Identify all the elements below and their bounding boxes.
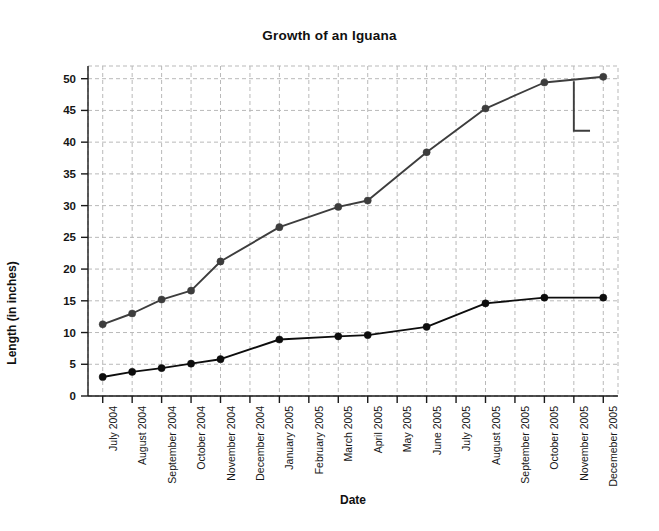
chart-container: Growth of an Iguana 05101520253035404550… [0,0,659,531]
data-point-marker [541,294,548,301]
plot-border [88,66,618,396]
y-tick-label: 0 [46,390,76,402]
y-axis-label: Length (in inches) [5,183,19,443]
data-point-marker [99,321,106,328]
y-tick-label: 5 [46,358,76,370]
data-point-marker [600,73,607,80]
y-tick-label: 30 [46,200,76,212]
x-axis-tick-labels: July 2004August 2004September 2004Octobe… [88,400,618,500]
data-point-marker [423,149,430,156]
data-point-marker [158,296,165,303]
x-tick-label: May 2005 [401,406,413,452]
y-tick-label: 15 [46,295,76,307]
x-tick-label: December 2004 [254,406,266,481]
series-line-lower-series [103,298,604,377]
y-tick-label: 35 [46,168,76,180]
y-tick-label: 25 [46,231,76,243]
data-point-marker [335,333,342,340]
data-point-marker [276,224,283,231]
y-tick-label: 10 [46,327,76,339]
plot-area: Length (in inches) [88,66,618,396]
vertical-drop-artifact [574,81,590,131]
x-tick-label: March 2005 [342,406,354,461]
data-point-marker [335,203,342,210]
artifact-stroke [574,81,590,131]
x-tick-label: October 2005 [548,406,560,470]
gridlines [88,66,618,396]
y-tick-label: 45 [46,104,76,116]
plot-svg [88,66,618,396]
x-tick-label: July 2005 [460,406,472,451]
y-tick-label: 50 [46,73,76,85]
x-tick-label: November 2005 [578,406,590,481]
axis-lines [88,66,618,396]
x-tick-label: July 2004 [107,406,119,451]
data-point-marker [482,105,489,112]
data-point-marker [217,356,224,363]
x-tick-label: January 2005 [283,406,295,470]
x-tick-label: April 2005 [372,406,384,453]
data-point-marker [364,197,371,204]
data-series-layer [99,73,607,380]
x-tick-label: November 2004 [225,406,237,481]
data-point-marker [129,368,136,375]
data-point-marker [158,364,165,371]
x-tick-label: February 2005 [313,406,325,474]
data-point-marker [423,323,430,330]
data-point-marker [482,300,489,307]
y-tick-label: 40 [46,136,76,148]
y-tick-label: 20 [46,263,76,275]
x-tick-label: Decemeber 2005 [607,406,619,487]
data-point-marker [187,360,194,367]
data-point-marker [187,287,194,294]
chart-title: Growth of an Iguana [0,28,659,43]
x-tick-label: September 2004 [166,406,178,484]
x-axis-label: Date [88,493,618,507]
data-point-marker [217,258,224,265]
data-point-marker [364,331,371,338]
x-tick-label: October 2004 [195,406,207,470]
data-point-marker [276,336,283,343]
series-line-upper-series [103,77,604,325]
data-point-marker [600,294,607,301]
x-tick-label: June 2005 [431,406,443,455]
x-tick-label: September 2005 [519,406,531,484]
data-point-marker [99,373,106,380]
data-point-marker [129,310,136,317]
x-tick-label: August 2005 [490,406,502,465]
y-axis-tick-labels: 05101520253035404550 [44,66,76,396]
axis-tick-marks [81,79,603,403]
data-point-marker [541,79,548,86]
x-tick-label: August 2004 [136,406,148,465]
